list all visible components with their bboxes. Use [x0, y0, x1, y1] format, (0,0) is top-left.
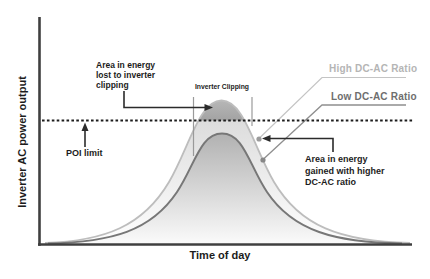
- high-legend-leader-line: [259, 78, 406, 139]
- inverter-clipping-label: Inverter Clipping: [188, 83, 256, 90]
- lost-energy-label-line3: clipping: [96, 80, 180, 90]
- inverter-clipping-diagram: Inverter AC power output Time of day Are…: [0, 0, 430, 279]
- gained-energy-arrowhead: [262, 135, 271, 142]
- gained-energy-label-line3: DC-AC ratio: [305, 177, 405, 189]
- diagram-canvas: [0, 0, 430, 279]
- lost-energy-arrow-line: [124, 91, 205, 108]
- gained-energy-label-line2: gained with higher: [305, 166, 405, 178]
- low-curve-marker-dot: [260, 157, 265, 162]
- lost-energy-label: Area in energy lost to inverter clipping: [96, 60, 180, 90]
- legend-high-dc-ac-ratio: High DC-AC Ratio: [329, 63, 417, 74]
- poi-limit-label: POI limit: [66, 148, 103, 158]
- high-curve-marker-dot: [256, 136, 261, 141]
- x-axis-label: Time of day: [150, 249, 290, 261]
- lost-energy-label-line1: Area in energy: [96, 60, 180, 70]
- legend-low-dc-ac-ratio: Low DC-AC Ratio: [331, 91, 417, 102]
- y-axis-label: Inverter AC power output: [16, 76, 28, 208]
- gained-energy-label: Area in energy gained with higher DC-AC …: [305, 154, 405, 189]
- gained-energy-label-line1: Area in energy: [305, 154, 405, 166]
- poi-limit-arrowhead: [82, 123, 89, 132]
- lost-energy-label-line2: lost to inverter: [96, 70, 180, 80]
